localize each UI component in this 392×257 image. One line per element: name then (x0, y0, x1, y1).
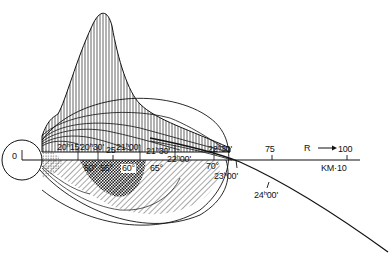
angle-label-50: 50° (84, 164, 97, 173)
minute: 00' (180, 154, 191, 164)
hour: 24 (254, 190, 264, 200)
axis-unit-label: KM·10 (321, 164, 347, 173)
angle-label-55: 55° (100, 164, 113, 173)
axis-direction-label: R (304, 144, 310, 153)
hour: 21 (116, 142, 126, 152)
tick-label-75: 75 (265, 145, 275, 154)
time-label-2100: 21h00' (116, 142, 140, 152)
minute: 30' (93, 142, 104, 152)
tick-label-100: 100 (338, 145, 352, 154)
time-label-2015: 20h15' (57, 142, 81, 152)
origin-label: 0 (12, 152, 17, 161)
hour: 20 (57, 142, 67, 152)
r-arrow-head (332, 146, 337, 151)
time-label-2230: 22h30' (208, 144, 232, 154)
density-peak (42, 13, 230, 152)
drift-diagram: 0 20h15' 20h30' 21h00' 21h30' 22h00' 22h… (0, 0, 392, 257)
time-label-2200: 22h00' (167, 154, 191, 164)
hour: 20 (80, 142, 90, 152)
time-label-2300: 23h00' (214, 171, 238, 181)
diagram-canvas (0, 0, 392, 257)
angle-label-65: 65° (150, 164, 163, 173)
minute: 30' (221, 144, 232, 154)
minute: 00' (267, 190, 278, 200)
angle-label-70: 70° (206, 162, 219, 171)
hour: 22 (167, 154, 177, 164)
hour: 22 (208, 144, 218, 154)
tick-label-25: 25 (106, 146, 116, 155)
time-label-2030: 20h30' (80, 142, 104, 152)
hour: 21 (146, 146, 156, 156)
angle-label-60: 60° (121, 164, 136, 173)
hour: 23 (214, 171, 224, 181)
time-label-2400: 24h00' (254, 190, 278, 200)
minute: 00' (129, 142, 140, 152)
minute: 00' (227, 171, 238, 181)
